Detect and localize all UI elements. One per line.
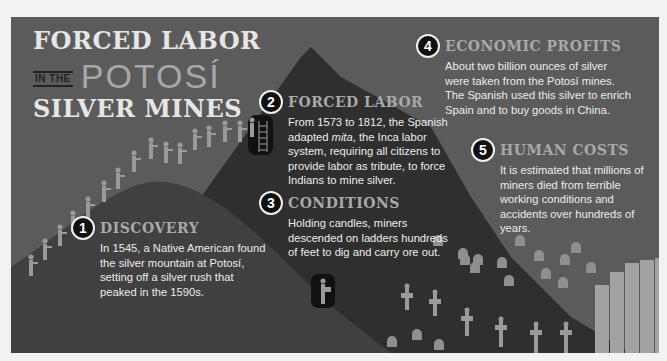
number-badge-4: 4 <box>416 34 440 58</box>
number-badge-1: 1 <box>71 216 95 240</box>
callout-body: Holding candles, miners descended on lad… <box>288 216 459 260</box>
callout-body: From 1573 to 1812, the Spanish adapted m… <box>288 115 459 188</box>
callout-body: It is estimated that millions of miners … <box>500 163 659 236</box>
callout-body: About two billion ounces of silver were … <box>445 59 631 117</box>
number-badge-3: 3 <box>259 191 283 215</box>
callout-heading: ECONOMIC PROFITS <box>445 38 621 54</box>
callout-conditions: 3 CONDITIONS Holding candles, miners des… <box>259 191 459 260</box>
title-line-3: SILVER MINES <box>33 97 261 121</box>
callout-human-costs: 5 HUMAN COSTS It is estimated that milli… <box>471 138 659 236</box>
callout-body: In 1545, a Native American found the sil… <box>100 241 271 299</box>
mine-entrance-icon <box>311 274 335 308</box>
title-in-the: IN THE <box>33 71 73 87</box>
title-potosi: POTOSÍ <box>81 59 221 93</box>
callout-heading: FORCED LABOR <box>288 94 423 110</box>
title-line-1: FORCED LABOR <box>33 29 261 53</box>
callout-heading: CONDITIONS <box>288 195 400 211</box>
infographic-panel: FORCED LABOR IN THE POTOSÍ SILVER MINES … <box>11 17 659 353</box>
callout-heading: HUMAN COSTS <box>500 142 629 158</box>
callout-discovery: 1 DISCOVERY In 1545, a Native American f… <box>71 216 271 299</box>
number-badge-5: 5 <box>471 138 495 162</box>
callout-heading: DISCOVERY <box>100 220 199 236</box>
infographic-title: FORCED LABOR IN THE POTOSÍ SILVER MINES <box>33 29 261 121</box>
silver-bars-icon <box>595 258 659 353</box>
body-emphasis: mita <box>332 131 353 143</box>
number-badge-2: 2 <box>259 90 283 114</box>
callout-economic-profits: 4 ECONOMIC PROFITS About two billion oun… <box>416 34 631 117</box>
